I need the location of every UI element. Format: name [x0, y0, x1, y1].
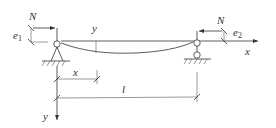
eccentricity-left-label: e1 [13, 29, 22, 43]
deflection-label: y [91, 22, 97, 34]
deflected-curve [61, 42, 193, 53]
beam-column-diagram: x y [0, 0, 276, 128]
load-right-label: N [216, 14, 225, 26]
eccentricity-right-label: e2 [233, 26, 242, 40]
x-axis-label: x [244, 45, 250, 57]
dimension-x-label: x [72, 66, 78, 78]
dimension-span-label: l [122, 83, 125, 95]
load-left-label: N [28, 10, 37, 22]
load-right [197, 28, 227, 44]
y-axis-label: y [42, 110, 48, 122]
roller-support-right [184, 40, 211, 64]
load-left [28, 25, 57, 45]
